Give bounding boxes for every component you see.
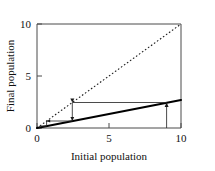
x-tick-label-5: 5 xyxy=(106,132,112,144)
y-tick-label-10: 10 xyxy=(20,18,32,30)
x-tick-label-0: 0 xyxy=(34,132,40,144)
identity-line-y-equals-x xyxy=(37,24,181,128)
cobweb-diagram-figure: 10 5 0 0 5 10 Initial population Final p… xyxy=(0,0,215,171)
y-tick-label-5: 5 xyxy=(26,70,32,82)
chart-canvas: 10 5 0 0 5 10 Initial population Final p… xyxy=(0,0,215,171)
x-tick-label-10: 10 xyxy=(176,132,188,144)
y-tick-label-0: 0 xyxy=(26,122,32,134)
y-axis-title: Final population xyxy=(4,39,16,112)
x-axis-title: Initial population xyxy=(71,150,148,162)
y-axis-ticks xyxy=(37,24,42,128)
cobweb-arrowhead-4 xyxy=(47,119,51,122)
